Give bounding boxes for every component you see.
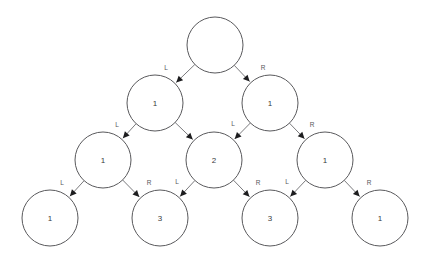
nodes-layer: 111211331 [22, 17, 408, 246]
edge-label: L [115, 121, 119, 128]
edge-label: L [175, 178, 179, 185]
edge-label: R [256, 179, 261, 186]
node-label: 2 [212, 156, 217, 165]
tree-node[interactable]: 1 [127, 75, 183, 131]
recursion-tree-diagram: LRLLRLRLRLR 111211331 [0, 0, 426, 262]
node-label: 1 [48, 214, 53, 223]
node-label: 3 [158, 214, 163, 223]
edge-label: L [231, 120, 235, 127]
edge-label: R [147, 179, 152, 186]
node-label: 1 [378, 214, 383, 223]
tree-node[interactable]: 3 [242, 190, 298, 246]
node-label: 3 [268, 214, 273, 223]
tree-node[interactable]: 3 [132, 190, 188, 246]
edge-label: R [367, 179, 372, 186]
edge-label: R [261, 64, 266, 71]
edge-label: L [285, 178, 289, 185]
node-label: 1 [268, 99, 273, 108]
node-label: 1 [323, 156, 328, 165]
tree-node[interactable] [187, 17, 243, 73]
tree-node[interactable]: 1 [75, 132, 131, 188]
edge-label: L [164, 64, 168, 71]
node-label: 1 [101, 156, 106, 165]
tree-node[interactable]: 2 [186, 132, 242, 188]
tree-canvas: LRLLRLRLRLR 111211331 [0, 0, 426, 262]
tree-node[interactable]: 1 [352, 190, 408, 246]
tree-node[interactable]: 1 [297, 132, 353, 188]
node-circle[interactable] [187, 17, 243, 73]
tree-node[interactable]: 1 [22, 190, 78, 246]
node-label: 1 [153, 99, 158, 108]
edge-label: R [310, 121, 315, 128]
tree-node[interactable]: 1 [242, 75, 298, 131]
edge-label: L [60, 179, 64, 186]
